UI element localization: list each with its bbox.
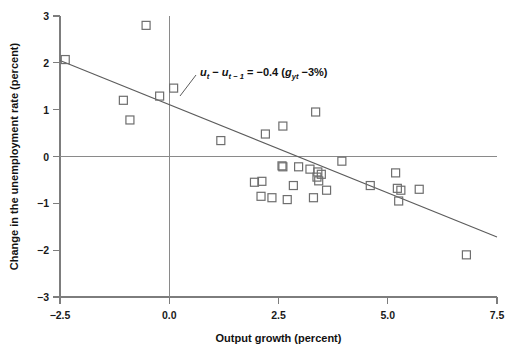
data-point-marker — [258, 177, 266, 185]
data-point-marker — [170, 84, 178, 92]
y-tick-label: −2 — [37, 244, 49, 256]
data-point-marker — [250, 178, 258, 186]
data-point-marker — [261, 130, 269, 138]
y-tick-label: −1 — [37, 197, 49, 209]
data-point-marker — [295, 163, 303, 171]
data-point-marker — [283, 196, 291, 204]
y-tick-label: −3 — [37, 291, 49, 303]
regression-equation-annotation: ut − ut − 1 = −0.4 (gyt −3%) — [200, 66, 328, 81]
data-point-marker — [126, 116, 134, 124]
data-point-marker — [392, 169, 400, 177]
data-point-marker — [323, 186, 331, 194]
data-point-marker — [289, 182, 297, 190]
data-point-marker — [415, 185, 423, 193]
chart-canvas: 3210−1−2−3−2.50.02.55.07.5ut − ut − 1 = … — [0, 0, 520, 356]
y-tick-label: 3 — [43, 10, 49, 22]
x-tick-label: 0.0 — [162, 309, 177, 321]
data-point-marker — [306, 165, 314, 173]
y-tick-label: 0 — [43, 151, 49, 163]
data-point-marker — [279, 122, 287, 130]
x-tick-label: 5.0 — [380, 309, 395, 321]
data-point-marker — [268, 194, 276, 202]
data-point-marker — [156, 92, 164, 100]
data-point-marker — [309, 194, 317, 202]
annotation-leader-line — [180, 75, 196, 96]
okuns-law-scatter-chart: 3210−1−2−3−2.50.02.55.07.5ut − ut − 1 = … — [0, 0, 520, 356]
data-point-marker — [217, 137, 225, 145]
data-point-marker — [119, 96, 127, 104]
regression-fit-line — [60, 60, 497, 237]
data-point-marker — [257, 192, 265, 200]
data-point-marker — [142, 21, 150, 29]
x-axis-title: Output growth (percent) — [216, 332, 342, 344]
x-tick-label: 2.5 — [271, 309, 286, 321]
y-axis-title: Change in the unemployment rate (percent… — [8, 42, 20, 270]
y-tick-label: 1 — [43, 104, 49, 116]
x-tick-label: −2.5 — [50, 309, 71, 321]
x-tick-label: 7.5 — [490, 309, 505, 321]
data-point-marker — [312, 108, 320, 116]
y-tick-label: 2 — [43, 57, 49, 69]
data-point-marker — [462, 251, 470, 259]
data-point-marker — [338, 157, 346, 165]
